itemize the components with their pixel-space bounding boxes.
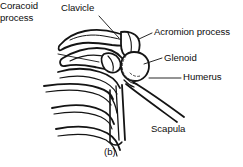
label-scapula: Scapula (151, 123, 185, 135)
label-acromion-process: Acromion process (154, 26, 230, 38)
humerus-shaft-upper (133, 82, 184, 117)
coracoid-process (102, 53, 121, 72)
glenoid-humeral-head-group (121, 52, 149, 84)
label-clavicle: Clavicle (61, 2, 94, 14)
scapula-lateral-border (122, 85, 125, 140)
label-glenoid: Glenoid (164, 52, 197, 64)
leader-acromion-process (139, 33, 152, 39)
humerus-shaft-lower (126, 84, 177, 122)
figure-caption: (b) (104, 146, 116, 157)
rib-2-upper (52, 105, 114, 124)
label-humerus: Humerus (183, 71, 222, 83)
humerus-bone (124, 80, 184, 122)
coracoid-outline (102, 53, 121, 72)
rib-1-lower (46, 90, 111, 105)
figure-container: Clavicle Acromion process Glenoid Humeru… (0, 0, 243, 167)
